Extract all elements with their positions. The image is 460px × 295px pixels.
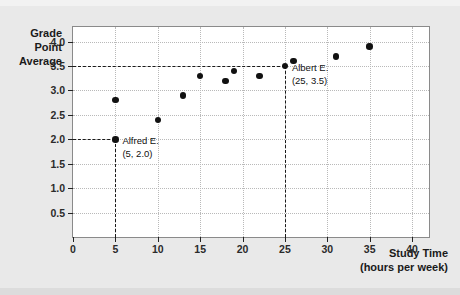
y-axis-tick-mark — [68, 213, 73, 214]
y-axis-tick-mark — [68, 90, 73, 91]
annotation-albert-e: Albert E.(25, 3.5) — [292, 62, 328, 87]
x-axis-tick-label: 35 — [364, 244, 376, 255]
x-axis-tick-mark — [285, 237, 286, 242]
x-axis-tick-mark — [158, 237, 159, 242]
annotation-alfred-e: Alfred E.(5, 2.0) — [122, 135, 158, 160]
x-axis-tick-label: 20 — [237, 244, 249, 255]
gridline-horizontal — [73, 164, 429, 165]
gridline-vertical — [158, 27, 159, 237]
gridline-horizontal — [73, 115, 429, 116]
x-axis-tick-label: 30 — [321, 244, 333, 255]
data-point — [112, 97, 118, 103]
y-axis-tick-label: 4.0 — [50, 36, 65, 47]
guide-line-vertical — [285, 66, 286, 237]
x-axis-tick-label: 0 — [70, 244, 76, 255]
data-point — [197, 73, 203, 79]
scatter-plot-figure: Grade Point Average Study Time (hours pe… — [0, 0, 460, 295]
data-point — [256, 73, 262, 79]
x-axis-tick-label: 40 — [406, 244, 418, 255]
plot-area: 0.51.01.52.02.53.03.54.00510152025303540… — [72, 26, 430, 238]
y-axis-tick-label: 1.5 — [50, 158, 65, 169]
data-point — [231, 68, 237, 74]
x-axis-tick-mark — [73, 237, 74, 242]
data-point — [282, 63, 288, 69]
annotation-name: Albert E. — [292, 62, 328, 75]
gridline-vertical — [200, 27, 201, 237]
x-axis-tick-label: 10 — [152, 244, 164, 255]
gridline-horizontal — [73, 188, 429, 189]
gridline-vertical — [243, 27, 244, 237]
y-axis-tick-label: 1.0 — [50, 183, 65, 194]
gridline-vertical — [412, 27, 413, 237]
data-point — [180, 92, 186, 98]
gridline-vertical — [370, 27, 371, 237]
y-axis-tick-label: 0.5 — [50, 207, 65, 218]
x-axis-tick-mark — [370, 237, 371, 242]
data-point — [155, 117, 161, 123]
x-axis-tick-mark — [200, 237, 201, 242]
y-axis-tick-mark — [68, 42, 73, 43]
x-axis-tick-mark — [115, 237, 116, 242]
y-axis-tick-mark — [68, 188, 73, 189]
x-axis-tick-mark — [412, 237, 413, 242]
card-top-edge — [0, 0, 460, 6]
guide-line-horizontal — [73, 66, 285, 67]
y-axis-tick-mark — [68, 164, 73, 165]
guide-line-vertical — [115, 139, 116, 237]
annotation-name: Alfred E. — [122, 135, 158, 148]
data-point — [222, 78, 228, 84]
annotation-coordinates: (5, 2.0) — [122, 148, 158, 161]
data-point — [366, 43, 372, 49]
gridline-horizontal — [73, 90, 429, 91]
x-axis-tick-label: 25 — [279, 244, 291, 255]
x-axis-tick-mark — [243, 237, 244, 242]
y-axis-tick-label: 2.5 — [50, 110, 65, 121]
x-axis-tick-mark — [327, 237, 328, 242]
data-point — [333, 53, 339, 59]
card-bottom-edge — [0, 288, 460, 295]
x-axis-tick-label: 5 — [112, 244, 118, 255]
y-axis-tick-mark — [68, 139, 73, 140]
y-axis-tick-mark — [68, 115, 73, 116]
x-axis-tick-label: 15 — [194, 244, 206, 255]
y-axis-tick-mark — [68, 66, 73, 67]
gridline-horizontal — [73, 213, 429, 214]
y-axis-tick-label: 3.0 — [50, 85, 65, 96]
guide-line-horizontal — [73, 139, 115, 140]
x-axis-title-unit: (hours per week) — [300, 260, 448, 274]
y-axis-tick-label: 2.0 — [50, 134, 65, 145]
y-axis-tick-label: 3.5 — [50, 61, 65, 72]
annotation-coordinates: (25, 3.5) — [292, 75, 328, 88]
gridline-horizontal — [73, 42, 429, 43]
data-point — [112, 136, 118, 142]
gridline-vertical — [327, 27, 328, 237]
